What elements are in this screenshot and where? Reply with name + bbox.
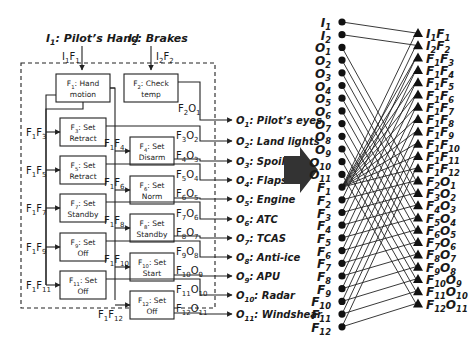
svg-text:temp: temp	[141, 90, 161, 99]
svg-text:Retract: Retract	[69, 172, 96, 181]
output-label-o1: O1: Pilot’s eyes	[236, 115, 322, 129]
left-node-f9	[338, 285, 345, 292]
flow-label-f5o4: F5O4	[176, 169, 199, 183]
input-label-pilots-hand: I1: Pilot’s Hand	[46, 32, 139, 47]
flow-label-f12o11: F12O11	[176, 303, 207, 317]
function-box-f5: F5: SetRetract	[60, 156, 106, 184]
left-node-o1	[338, 44, 345, 51]
svg-text:Off: Off	[146, 307, 158, 316]
right-node-f3o2	[413, 188, 423, 197]
right-node-f2o1	[413, 176, 423, 185]
svg-text:Off: Off	[77, 249, 89, 258]
right-node-f1f11	[413, 151, 423, 160]
function-box-f11: F11: SetOff	[60, 271, 106, 299]
right-node-f1f5	[413, 77, 423, 86]
flow-label-f1f7: F1F7	[26, 203, 46, 217]
right-node-f1f10	[413, 139, 423, 148]
flow-label-f9o8: F9O8	[176, 246, 199, 260]
output-label-o11: O11: Windshear	[236, 309, 323, 323]
output-label-o4: O4: Flaps	[236, 175, 287, 189]
flow-label-f7o6: F7O6	[176, 208, 199, 222]
left-node-o7	[338, 120, 345, 127]
flow-label-f10o9: F10O9	[176, 265, 203, 279]
svg-text:Standby: Standby	[67, 210, 99, 219]
flow-label-f3o2: F3O2	[176, 130, 199, 144]
flow-label-f2o1: F2O1	[178, 103, 201, 117]
flow-label-f1f10: F1F10	[104, 254, 129, 268]
left-node-f12	[338, 323, 345, 330]
left-node-f6	[338, 247, 345, 254]
output-label-o10: O10: Radar	[236, 290, 296, 304]
right-node-f1f9	[413, 126, 423, 135]
flow-label-f8o7: F8O7	[176, 227, 199, 241]
left-node-o5	[338, 95, 345, 102]
flow-label-f1f9: F1F9	[26, 242, 46, 256]
left-node-f5	[338, 234, 345, 241]
bipartite-graph: I1I2O1O2O3O4O5O6O7O8O9O10O11F1F2F3F4F5F6…	[309, 16, 468, 337]
right-node-f10o9	[413, 274, 423, 283]
right-node-f5o4	[413, 213, 423, 222]
function-box-f7: F7: SetStandby	[60, 194, 106, 222]
function-box-f1: F1: Handmotion	[56, 74, 110, 102]
output-label-o5: O5: Engine	[236, 194, 296, 208]
output-label-o6: O6: ATC	[236, 214, 278, 228]
right-node-f1f8	[413, 114, 423, 123]
left-node-f11	[338, 311, 345, 318]
left-node-i2	[338, 31, 345, 38]
left-node-o3	[338, 69, 345, 76]
svg-text:Disarm: Disarm	[139, 153, 166, 162]
output-label-o9: O9: APU	[236, 271, 280, 285]
left-node-f3	[338, 209, 345, 216]
left-node-o2	[338, 57, 345, 64]
svg-text:motion: motion	[70, 90, 97, 99]
left-node-f2	[338, 196, 345, 203]
left-node-o4	[338, 82, 345, 89]
svg-text:Start: Start	[143, 269, 161, 278]
right-node-f11o10	[413, 286, 423, 295]
flow-label-f11o10: F11O10	[176, 284, 207, 298]
function-box-f2: F2: Checktemp	[124, 74, 178, 102]
left-node-f10	[338, 298, 345, 305]
flow-label-f1f12: F1F12	[98, 309, 123, 323]
right-node-f9o8	[413, 262, 423, 271]
function-box-f6: F6: SetNorm	[130, 176, 174, 204]
left-node-i1	[338, 18, 345, 25]
svg-text:Off: Off	[77, 287, 89, 296]
function-box-f10: F10: SetStart	[130, 253, 174, 281]
left-node-o9	[338, 145, 345, 152]
right-node-f1f7	[413, 102, 423, 111]
flow-label-f6o5: F6O5	[176, 188, 199, 202]
output-label-o2: O2: Land lights	[236, 136, 320, 150]
diagram-canvas: I1: Pilot’s HandI2: BrakesI1F1I2F2F1: Ha…	[0, 0, 474, 354]
flow-label-f1f3: F1F3	[26, 127, 46, 141]
left-node-o6	[338, 107, 345, 114]
functional-flow-diagram: I1: Pilot’s HandI2: BrakesI1F1I2F2F1: Ha…	[21, 32, 323, 323]
left-node-o8	[338, 133, 345, 140]
right-node-f6o5	[413, 225, 423, 234]
svg-text:Retract: Retract	[69, 134, 96, 143]
function-box-f3: F3: SetRetract	[60, 118, 106, 146]
flow-label-f1f5: F1F5	[26, 165, 46, 179]
right-node-f1f6	[413, 90, 423, 99]
function-box-f8: F8: SetStandby	[130, 214, 174, 242]
right-node-f12o11	[413, 299, 423, 308]
left-node-o11	[338, 171, 345, 178]
right-node-f8o7	[413, 249, 423, 258]
left-node-f4	[338, 222, 345, 229]
output-label-o7: O7: TCAS	[236, 233, 286, 247]
flow-label-f1f8: F1F8	[104, 215, 124, 229]
flow-label-f1f11: F1F11	[26, 280, 51, 294]
flow-label-f4o3: F4O3	[176, 150, 199, 164]
function-box-f12: F12: SetOff	[130, 291, 174, 319]
left-node-o10	[338, 158, 345, 165]
right-node-f7o6	[413, 237, 423, 246]
right-node-f1f12	[413, 163, 423, 172]
function-box-f4: F4: SetDisarm	[130, 137, 174, 165]
svg-text:Norm: Norm	[142, 192, 162, 201]
output-label-o8: O8: Anti-ice	[236, 252, 300, 266]
right-node-f1f3	[413, 53, 423, 62]
right-node-f4o3	[413, 200, 423, 209]
right-node-f1f4	[413, 65, 423, 74]
left-node-f7	[338, 260, 345, 267]
left-node-f1	[338, 184, 345, 191]
